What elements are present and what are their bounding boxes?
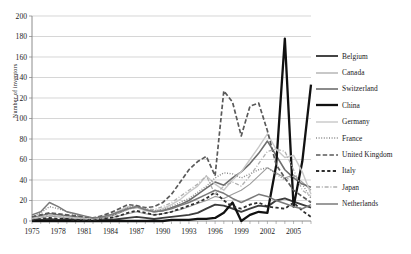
y-axis-tick-label: 180 <box>16 32 28 41</box>
legend-item-united-kingdom[interactable]: United Kingdom <box>316 146 411 162</box>
legend-item-belgium[interactable]: Belgium <box>316 48 411 64</box>
x-axis-tick-label: 1984 <box>103 227 118 236</box>
legend-item-france[interactable]: France <box>316 130 411 146</box>
legend-item-label: France <box>342 134 362 143</box>
legend-line-swatch <box>316 68 338 78</box>
legend-line-swatch <box>316 166 338 176</box>
legend-item-label: Netherlands <box>342 199 378 208</box>
y-axis-title: Number of inventors <box>3 59 17 123</box>
legend-item-label: Canada <box>342 68 364 77</box>
legend-item-label: United Kingdom <box>342 150 393 159</box>
chart-legend: BelgiumCanadaSwitzerlandChinaGermanyFran… <box>316 48 411 212</box>
series-line-france <box>32 168 311 218</box>
legend-line-swatch <box>316 117 338 127</box>
legend-item-japan[interactable]: Japan <box>316 179 411 195</box>
legend-item-italy[interactable]: Italy <box>316 163 411 179</box>
chart-container: 0204060801001201401601802001975197819811… <box>0 0 411 254</box>
x-axis-tick-label: 1975 <box>24 227 39 236</box>
x-axis-tick-label: 1987 <box>129 227 144 236</box>
x-axis-tick-label: 1996 <box>208 227 223 236</box>
legend-item-switzerland[interactable]: Switzerland <box>316 81 411 97</box>
legend-item-germany[interactable]: Germany <box>316 114 411 130</box>
y-axis-title-text: Number of inventors <box>11 64 18 118</box>
x-axis-tick-label: 1993 <box>181 227 196 236</box>
y-axis-tick-label: 60 <box>19 155 27 164</box>
x-axis-tick-label: 1990 <box>155 227 170 236</box>
legend-line-swatch <box>316 182 338 192</box>
y-axis-tick-label: 200 <box>16 12 28 21</box>
legend-item-china[interactable]: China <box>316 97 411 113</box>
legend-item-label: Belgium <box>342 52 368 61</box>
legend-item-canada[interactable]: Canada <box>316 64 411 80</box>
y-axis-tick-label: 0 <box>23 217 27 226</box>
y-axis-tick-label: 80 <box>19 135 27 144</box>
legend-item-label: Japan <box>342 183 359 192</box>
legend-line-swatch <box>316 133 338 143</box>
legend-item-netherlands[interactable]: Netherlands <box>316 196 411 212</box>
legend-line-swatch <box>316 100 338 110</box>
y-axis-tick-label: 160 <box>16 53 28 62</box>
y-axis-tick-label: 20 <box>19 196 27 205</box>
legend-line-swatch <box>316 84 338 94</box>
legend-item-label: Italy <box>342 166 356 175</box>
legend-item-label: China <box>342 101 360 110</box>
x-axis-tick-label: 2002 <box>260 227 275 236</box>
x-axis-tick-label: 1999 <box>234 227 249 236</box>
x-axis-tick-label: 2005 <box>286 227 301 236</box>
legend-line-swatch <box>316 51 338 61</box>
x-axis-tick-label: 1978 <box>51 227 66 236</box>
x-axis-tick-label: 1981 <box>77 227 92 236</box>
legend-line-swatch <box>316 199 338 209</box>
legend-line-swatch <box>316 150 338 160</box>
legend-item-label: Switzerland <box>342 84 378 93</box>
legend-item-label: Germany <box>342 117 370 126</box>
y-axis-tick-label: 40 <box>19 176 27 185</box>
